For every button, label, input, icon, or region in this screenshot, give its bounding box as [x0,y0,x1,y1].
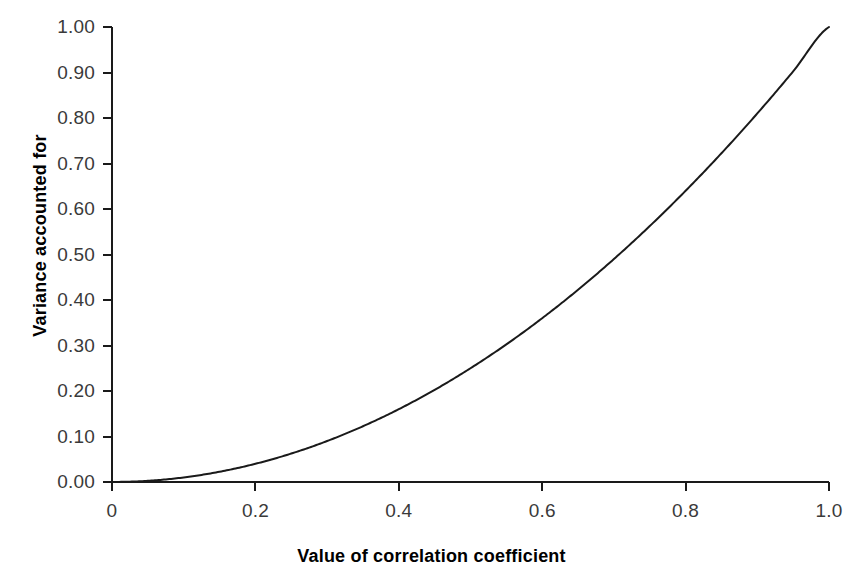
plot-canvas [0,0,863,576]
x-axis-tick-label: 0.4 [385,500,412,522]
y-axis-tick-label: 0.00 [0,471,95,493]
x-axis-tick-label: 1.0 [815,500,842,522]
axis-ticks-group [103,27,829,491]
axes-group [112,27,829,482]
data-curve [112,27,829,482]
data-series-group [112,27,829,482]
x-axis-tick-label: 0 [107,500,118,522]
x-axis-tick-label: 0.6 [529,500,556,522]
x-axis-tick-label: 0.2 [242,500,269,522]
y-axis-title: Variance accounted for [30,36,51,436]
x-axis-tick-label: 0.8 [672,500,699,522]
chart-figure: 0.000.100.200.300.400.500.600.700.800.90… [0,0,863,576]
x-axis-title: Value of correlation coefficient [0,546,863,567]
